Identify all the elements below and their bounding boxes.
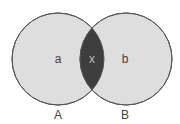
region-a-label: a [55,52,62,66]
set-b-name: B [121,108,129,122]
set-a-name: A [54,108,62,122]
region-b-label: b [122,52,129,66]
venn-diagram: a x b A B [0,0,180,124]
intersection-label: x [89,52,95,66]
